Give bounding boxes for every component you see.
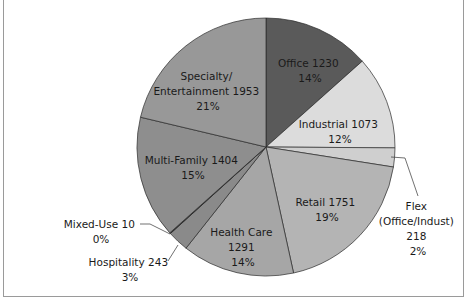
leader-line-flex	[391, 157, 418, 196]
label-mixed-use: Mixed-Use 10 0%	[64, 218, 138, 245]
pie-chart: Office 1230 14% Industrial 1073 12% Flex…	[0, 0, 469, 299]
label-flex: Flex (Office/Indust) 218 2%	[379, 200, 457, 257]
label-hospitality: Hospitality 243 3%	[89, 256, 172, 283]
